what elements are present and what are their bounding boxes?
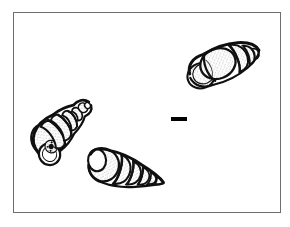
shell-figure-group xyxy=(0,0,290,227)
shell-bottom-center xyxy=(80,144,168,199)
shell-top-right xyxy=(181,33,265,94)
illustration-plate: Gastropod shell plate xyxy=(0,0,290,227)
scale-bar xyxy=(171,117,187,121)
